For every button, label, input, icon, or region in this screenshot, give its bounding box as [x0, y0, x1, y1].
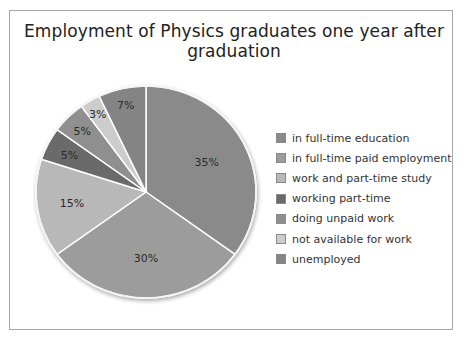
legend-item-full-time-paid-employment: in full-time paid employment [276, 148, 452, 168]
legend-label: in full-time education [292, 132, 409, 145]
slice-percent-label: 7% [117, 99, 134, 112]
legend-item-not-available-for-work: not available for work [276, 229, 452, 249]
legend-label: doing unpaid work [292, 212, 394, 225]
legend-item-work-and-part-time-study: work and part-time study [276, 168, 452, 188]
slice-percent-label: 35% [195, 156, 219, 169]
slice-percent-label: 30% [134, 252, 158, 265]
legend-item-full-time-education: in full-time education [276, 128, 452, 148]
legend-swatch [276, 153, 286, 163]
slice-percent-label: 5% [73, 125, 90, 138]
slice-percent-label: 15% [60, 197, 84, 210]
legend-swatch [276, 234, 286, 244]
legend-item-unemployed: unemployed [276, 249, 452, 269]
legend-label: in full-time paid employment [292, 152, 452, 165]
slice-percent-label: 5% [61, 149, 78, 162]
legend-swatch [276, 254, 286, 264]
legend-label: unemployed [292, 253, 360, 266]
legend-swatch [276, 214, 286, 224]
legend-swatch [276, 133, 286, 143]
legend-label: not available for work [292, 233, 412, 246]
legend-swatch [276, 194, 286, 204]
legend-swatch [276, 173, 286, 183]
legend-item-doing-unpaid-work: doing unpaid work [276, 209, 452, 229]
legend-item-working-part-time: working part-time [276, 189, 452, 209]
legend: in full-time education in full-time paid… [276, 128, 452, 269]
slice-percent-label: 3% [89, 108, 106, 121]
legend-label: work and part-time study [292, 172, 432, 185]
legend-label: working part-time [292, 192, 391, 205]
